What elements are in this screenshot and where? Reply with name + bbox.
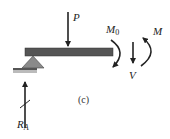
internal-moment-label: M — [152, 25, 163, 37]
internal-moment-arrow — [141, 38, 151, 66]
pin-support — [13, 56, 44, 73]
reaction-label: RA — [16, 118, 29, 132]
free-body-diagram: P RA M0 V M (c) — [0, 0, 170, 139]
applied-moment-label: M0 — [105, 23, 119, 37]
load-label: P — [72, 11, 80, 23]
figure-caption: (c) — [78, 94, 89, 106]
shear-label: V — [129, 69, 137, 81]
beam — [25, 48, 113, 56]
